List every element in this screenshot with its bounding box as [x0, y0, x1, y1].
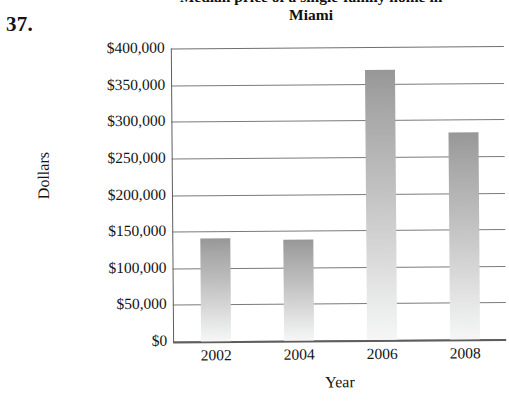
x-axis-tick-label-2004: 2004	[269, 345, 329, 363]
x-axis-tick-label-2006: 2006	[352, 345, 412, 363]
y-axis-title: Dollars	[34, 116, 53, 236]
y-axis-tick-label: $400,000	[59, 39, 165, 58]
y-axis-tick-label: $350,000	[59, 75, 165, 94]
x-axis-tick-label-2008: 2008	[435, 344, 495, 362]
x-axis-tick-labels: 2002200420062008	[173, 344, 506, 371]
y-axis-tick-label: $150,000	[60, 222, 166, 241]
y-axis-tick-label: $300,000	[59, 112, 165, 131]
bar-2002	[200, 239, 231, 342]
y-axis-tick-label: $200,000	[60, 185, 166, 204]
y-axis-tick-label: $0	[61, 332, 167, 351]
y-axis-tick-label: $100,000	[60, 258, 166, 277]
x-axis-tick-label-2002: 2002	[186, 346, 246, 364]
y-axis-tick-label: $50,000	[61, 295, 167, 314]
x-axis-title: Year	[173, 372, 506, 393]
bar-2008	[448, 132, 480, 340]
y-axis-tick-labels: $400,000$350,000$300,000$250,000$200,000…	[55, 49, 167, 344]
bar-series	[171, 46, 506, 342]
bar-2004	[283, 239, 314, 340]
y-axis-tick-label: $250,000	[60, 149, 166, 168]
chart-plot-wrapper: $400,000$350,000$300,000$250,000$200,000…	[0, 0, 509, 412]
bar-2006	[365, 70, 397, 340]
